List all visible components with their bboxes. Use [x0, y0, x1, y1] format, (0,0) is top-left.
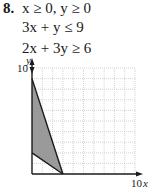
x-axis-label: x: [142, 177, 148, 189]
y-tick-10: 10: [17, 62, 29, 74]
x-tick-10: 10: [131, 177, 143, 189]
inequality-graph: y 10 10 x: [0, 0, 152, 194]
